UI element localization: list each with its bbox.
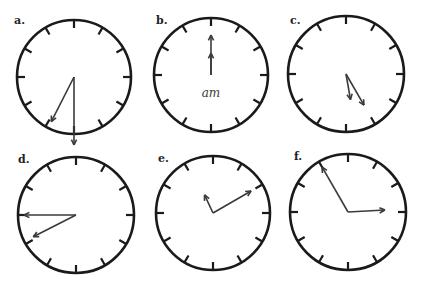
clock-label-e: e. xyxy=(158,152,169,165)
tick-mark xyxy=(238,164,242,171)
tick-mark xyxy=(373,162,377,169)
tick-mark xyxy=(101,258,105,265)
tick-mark xyxy=(116,102,123,106)
clocks-svg: am xyxy=(0,0,421,285)
tick-mark xyxy=(46,28,50,35)
tick-mark xyxy=(253,100,260,104)
clock-a xyxy=(17,20,131,145)
tick-mark xyxy=(46,119,50,126)
clock-e xyxy=(156,156,270,270)
tick-mark xyxy=(119,240,126,244)
tick-mark xyxy=(47,258,51,265)
clock-d xyxy=(18,157,134,273)
am-annotation: am xyxy=(202,86,221,100)
clock-label-d: d. xyxy=(18,153,30,166)
clock-label-a: a. xyxy=(14,14,25,27)
tick-mark xyxy=(253,47,260,51)
clock-hand-long xyxy=(213,191,251,213)
tick-mark xyxy=(255,185,262,189)
clock-hand-short xyxy=(322,167,348,212)
tick-mark xyxy=(119,186,126,190)
tick-mark xyxy=(162,100,169,104)
tick-mark xyxy=(164,185,171,189)
arrowhead-icon xyxy=(351,94,353,100)
clock-label-f: f. xyxy=(294,150,302,163)
tick-mark xyxy=(296,45,303,49)
clock-c xyxy=(288,16,404,132)
tick-mark xyxy=(99,119,103,126)
clock-b: am xyxy=(154,18,268,132)
tick-mark xyxy=(389,99,396,103)
tick-mark xyxy=(319,255,323,262)
tick-mark xyxy=(236,26,240,33)
tick-mark xyxy=(25,49,32,53)
tick-mark xyxy=(317,117,321,124)
tick-mark xyxy=(373,255,377,262)
tick-mark xyxy=(298,237,305,241)
tick-mark xyxy=(47,165,51,172)
tick-mark xyxy=(236,117,240,124)
tick-mark xyxy=(391,183,398,187)
tick-mark xyxy=(317,24,321,31)
tick-mark xyxy=(101,165,105,172)
tick-mark xyxy=(371,117,375,124)
tick-mark xyxy=(255,238,262,242)
clock-f xyxy=(290,154,406,270)
clock-hand-short xyxy=(51,77,74,122)
tick-mark xyxy=(26,240,33,244)
tick-mark xyxy=(389,45,396,49)
tick-mark xyxy=(185,164,189,171)
clock-label-c: c. xyxy=(290,14,301,27)
tick-mark xyxy=(25,102,32,106)
tick-mark xyxy=(185,255,189,262)
tick-mark xyxy=(183,26,187,33)
tick-mark xyxy=(162,47,169,51)
tick-mark xyxy=(116,49,123,53)
tick-mark xyxy=(26,186,33,190)
clock-hand-long xyxy=(348,210,385,212)
tick-mark xyxy=(371,24,375,31)
tick-mark xyxy=(391,237,398,241)
tick-mark xyxy=(99,28,103,35)
tick-mark xyxy=(164,238,171,242)
tick-mark xyxy=(183,117,187,124)
clock-hand-short xyxy=(33,215,76,237)
tick-mark xyxy=(296,99,303,103)
clock-label-b: b. xyxy=(156,14,168,27)
tick-mark xyxy=(238,255,242,262)
tick-mark xyxy=(298,183,305,187)
